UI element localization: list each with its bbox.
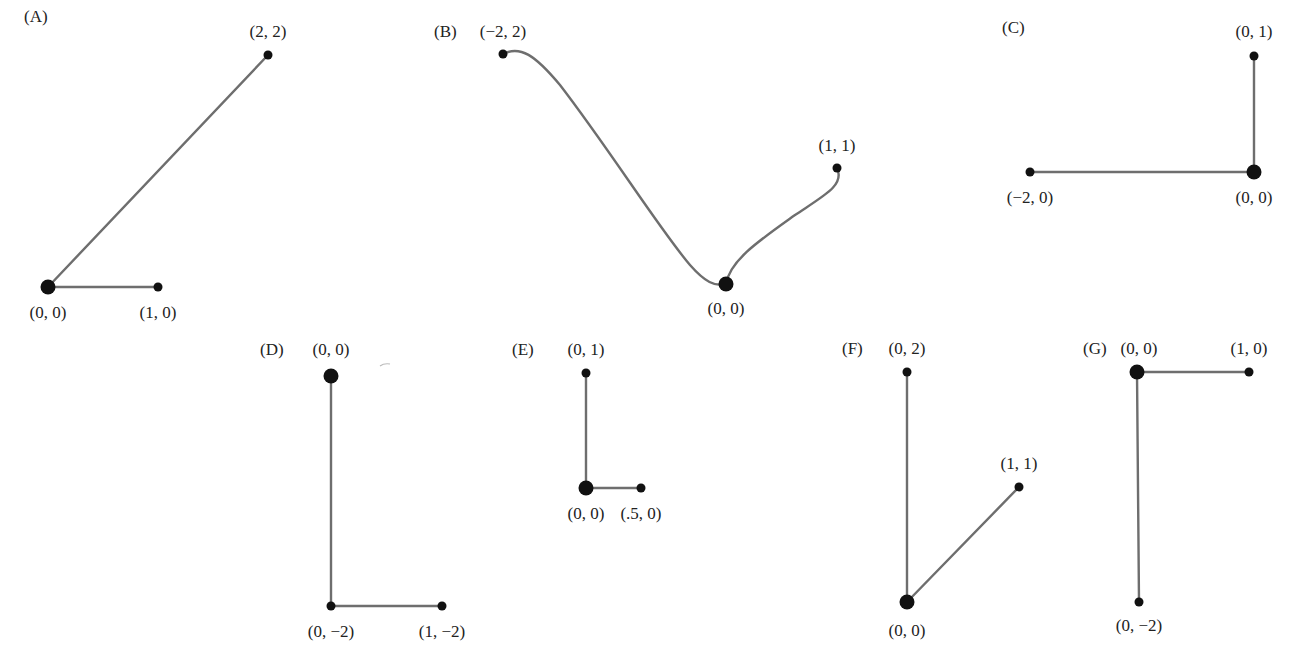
leaf-node	[1026, 168, 1035, 177]
leaf-node	[438, 602, 447, 611]
panel-a: (2, 2)(1, 0)(0, 0)(A)	[24, 7, 286, 322]
root-label: (0, 0)	[313, 340, 350, 359]
point-label: (−2, 2)	[480, 22, 526, 41]
panel-label: (E)	[512, 340, 534, 359]
stray-mark	[380, 364, 390, 366]
panel-d: (0, −2)(1, −2)(0, 0)(D)	[260, 340, 465, 641]
point-label: (1, 0)	[140, 303, 177, 322]
leaf-node	[499, 50, 508, 59]
panel-label: (F)	[842, 339, 863, 358]
point-label: (0, 1)	[568, 340, 605, 359]
point-label: (1, 0)	[1231, 339, 1268, 358]
point-label: (0, −2)	[308, 622, 354, 641]
point-label: (1, 1)	[1001, 454, 1038, 473]
root-node	[719, 277, 734, 292]
root-label: (0, 0)	[568, 504, 605, 523]
panel-label: (G)	[1083, 339, 1107, 358]
leaf-node	[903, 368, 912, 377]
panel-c: (0, 1)(−2, 0)(0, 0)(C)	[1002, 18, 1272, 207]
root-label: (0, 0)	[1236, 188, 1273, 207]
leaf-node	[1250, 52, 1259, 61]
root-node	[324, 369, 339, 384]
root-label: (0, 0)	[708, 299, 745, 318]
leaf-node	[1135, 598, 1144, 607]
edge	[907, 487, 1019, 602]
root-node	[1130, 365, 1145, 380]
root-label: (0, 0)	[889, 621, 926, 640]
point-label: (−2, 0)	[1007, 188, 1053, 207]
leaf-node	[582, 369, 591, 378]
panel-e: (0, 1)(.5, 0)(0, 0)(E)	[512, 340, 662, 523]
leaf-node	[1015, 483, 1024, 492]
tree-diagram-figure: (2, 2)(1, 0)(0, 0)(A)(−2, 2)(1, 1)(0, 0)…	[0, 0, 1292, 656]
root-node	[579, 481, 594, 496]
edge	[48, 55, 268, 287]
panel-b: (−2, 2)(1, 1)(0, 0)(B)	[434, 22, 855, 318]
point-label: (0, 1)	[1236, 22, 1273, 41]
point-label: (1, 1)	[819, 136, 856, 155]
leaf-node	[264, 51, 273, 60]
panel-f: (0, 2)(1, 1)(0, 0)(F)	[842, 339, 1037, 640]
edge	[503, 51, 726, 285]
panel-label: (D)	[260, 340, 284, 359]
root-node	[41, 280, 56, 295]
panel-label: (A)	[24, 7, 48, 26]
leaf-node	[833, 164, 842, 173]
panel-label: (B)	[434, 22, 457, 41]
panel-label: (C)	[1002, 18, 1025, 37]
leaf-node	[1245, 368, 1254, 377]
point-label: (1, −2)	[419, 622, 465, 641]
leaf-node	[154, 283, 163, 292]
root-label: (0, 0)	[30, 303, 67, 322]
root-label: (0, 0)	[1121, 339, 1158, 358]
leaf-node	[327, 602, 336, 611]
root-node	[1247, 165, 1262, 180]
point-label: (0, −2)	[1116, 616, 1162, 635]
panel-g: (1, 0)(0, −2)(0, 0)(G)	[1083, 339, 1267, 635]
root-node	[900, 595, 915, 610]
edge	[1137, 372, 1139, 602]
point-label: (2, 2)	[250, 22, 287, 41]
point-label: (.5, 0)	[620, 504, 661, 523]
leaf-node	[637, 484, 646, 493]
point-label: (0, 2)	[889, 339, 926, 358]
edge	[726, 168, 839, 284]
